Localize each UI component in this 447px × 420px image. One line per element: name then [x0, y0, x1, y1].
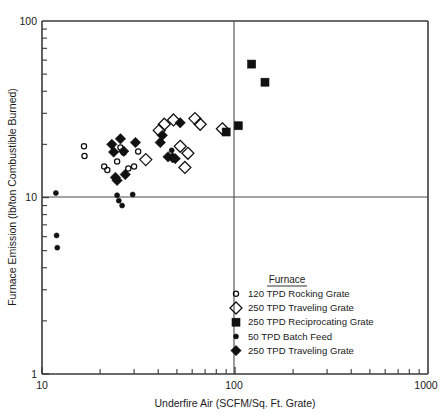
- x-tick-label-10: 10: [36, 379, 48, 391]
- data-point-1-0: [140, 154, 152, 166]
- x-tick-label-1000: 1000: [414, 379, 438, 391]
- x-axis-ticks: [42, 367, 419, 374]
- legend-items: 120 TPD Rocking Grate250 TPD Traveling G…: [230, 288, 374, 356]
- y-tick-labels: 100 10 1: [19, 15, 37, 380]
- series-3: [53, 148, 174, 250]
- legend-marker-1: [230, 302, 242, 314]
- data-point-3-5: [120, 203, 125, 208]
- data-point-3-3: [115, 193, 120, 198]
- y-tick-label-10: 10: [25, 191, 37, 203]
- data-point-0-0: [81, 144, 86, 149]
- data-point-0-8: [131, 164, 136, 169]
- data-point-3-6: [130, 192, 135, 197]
- data-point-1-5: [179, 161, 191, 173]
- chart-figure: 100 10 1 10 100 1000 Underfire Air (SCFM…: [0, 0, 447, 420]
- data-point-3-4: [116, 198, 121, 203]
- data-point-4-13: [175, 118, 185, 128]
- legend-label-3: 50 TPD Batch Feed: [248, 331, 332, 342]
- data-point-4-1: [108, 147, 118, 157]
- data-point-0-1: [82, 153, 87, 158]
- data-point-2-0: [222, 128, 230, 136]
- data-point-4-0: [107, 139, 117, 149]
- x-axis-title: Underfire Air (SCFM/Sq. Ft. Grate): [154, 397, 315, 409]
- legend-label-4: 250 TPD Traveling Grate: [248, 345, 354, 356]
- x-tick-labels: 10 100 1000: [36, 379, 438, 391]
- data-point-4-7: [130, 137, 140, 147]
- legend-marker-4: [231, 345, 241, 355]
- data-point-3-1: [54, 233, 59, 238]
- legend-title: Furnace: [269, 274, 306, 285]
- data-point-3-0: [53, 191, 58, 196]
- x-tick-label-100: 100: [225, 379, 243, 391]
- legend-marker-2: [232, 318, 240, 326]
- y-tick-label-100: 100: [19, 15, 37, 27]
- data-point-2-2: [248, 60, 256, 68]
- y-axis-ticks: [42, 29, 49, 374]
- scatter-plot-svg: 100 10 1 10 100 1000 Underfire Air (SCFM…: [0, 0, 447, 420]
- legend-marker-3: [234, 334, 239, 339]
- legend: Furnace 120 TPD Rocking Grate250 TPD Tra…: [230, 274, 374, 356]
- data-point-2-1: [234, 122, 242, 130]
- data-point-4-5: [118, 146, 128, 156]
- series-2: [222, 60, 269, 136]
- legend-label-1: 250 TPD Traveling Grate: [248, 302, 354, 313]
- data-points: [53, 60, 269, 250]
- data-point-0-9: [136, 149, 141, 154]
- data-point-2-3: [261, 78, 269, 86]
- data-point-4-4: [115, 134, 125, 144]
- data-point-3-7: [169, 148, 174, 153]
- data-point-0-4: [115, 159, 120, 164]
- legend-label-2: 250 TPD Reciprocating Grate: [248, 316, 374, 327]
- legend-label-0: 120 TPD Rocking Grate: [248, 288, 350, 299]
- y-axis-title: Furnace Emission (lb/ton Combustible Bur…: [6, 88, 18, 306]
- data-point-0-3: [105, 167, 110, 172]
- data-point-3-2: [55, 245, 60, 250]
